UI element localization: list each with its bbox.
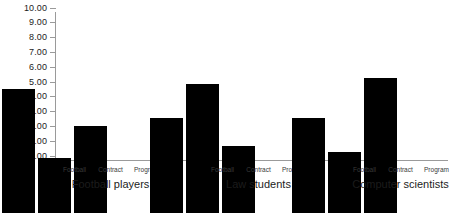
bar[interactable] (186, 84, 219, 213)
group-title: Computer scientists (348, 178, 453, 191)
bar[interactable] (292, 118, 325, 213)
series-label: Football (348, 166, 381, 174)
series-label-row: FootballContractProgram (348, 166, 453, 174)
series-label-row: FootballContractProgram (58, 166, 163, 174)
series-label: Football (58, 166, 91, 174)
bar[interactable] (364, 78, 397, 213)
series-label: Contract (384, 166, 417, 174)
group-title: Football players (58, 178, 163, 191)
series-label: Football (206, 166, 239, 174)
bar[interactable] (2, 89, 35, 213)
y-axis-tick-label: 7.00 (29, 48, 50, 57)
group-label-block: FootballContractProgramComputer scientis… (348, 166, 453, 191)
bar[interactable] (150, 118, 183, 213)
y-axis-tick-mark (50, 8, 56, 9)
group-label-block: FootballContractProgramFootball players (58, 166, 163, 191)
y-axis-tick-label: 10.00 (24, 4, 50, 13)
series-label: Program (420, 166, 453, 174)
series-label: Contract (94, 166, 127, 174)
y-axis-tick-label: 8.00 (29, 33, 50, 42)
series-label: Contract (242, 166, 275, 174)
y-axis-tick-label: 9.00 (29, 18, 50, 27)
